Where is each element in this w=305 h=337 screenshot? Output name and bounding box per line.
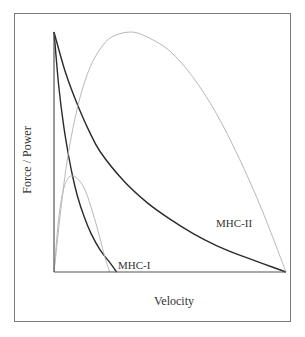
mhc2-label: MHC-II xyxy=(216,217,252,229)
chart-curves xyxy=(54,32,286,272)
mhc-ii-power-curve xyxy=(54,32,286,272)
y-axis-label: Force / Power xyxy=(20,126,34,193)
mhc-i-power-curve xyxy=(54,176,110,272)
mhc1-label: MHC-I xyxy=(118,259,151,271)
force-power-chart: MHC-I MHC-II Velocity Force / Power xyxy=(0,0,305,337)
mhc-ii-force-curve xyxy=(54,32,286,272)
x-axis-label: Velocity xyxy=(154,294,194,308)
